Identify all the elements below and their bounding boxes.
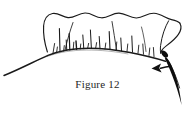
figure-caption: Figure 12 <box>0 78 191 91</box>
bristle <box>121 38 122 51</box>
bristle <box>69 34 70 51</box>
bristle <box>59 29 60 52</box>
figure-illustration <box>0 0 191 120</box>
bristle <box>132 36 133 52</box>
figure-page: Figure 12 <box>0 0 191 120</box>
bristle <box>73 42 74 49</box>
bristle <box>66 40 67 50</box>
bristle <box>153 48 154 57</box>
bristle <box>80 44 81 49</box>
bristle <box>76 41 77 49</box>
